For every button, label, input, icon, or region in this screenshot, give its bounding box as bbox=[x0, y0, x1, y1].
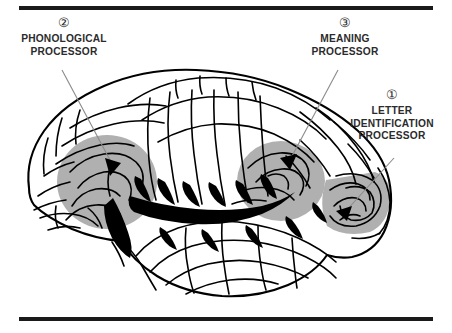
callout-meaning-processor: ③ MEANING PROCESSOR bbox=[288, 16, 402, 58]
callout-phonological-processor: ② PHONOLOGICAL PROCESSOR bbox=[4, 16, 124, 58]
callout-label-letter-line3: PROCESSOR bbox=[337, 130, 447, 142]
callout-label-meaning-line1: MEANING bbox=[288, 33, 402, 45]
leader-line-meaning bbox=[291, 70, 338, 158]
callout-number-3: ③ bbox=[288, 16, 402, 31]
callout-label-letter-line1: LETTER bbox=[337, 105, 447, 117]
callout-label-letter-line2: IDENTIFICATION bbox=[337, 118, 447, 130]
callout-label-meaning-line2: PROCESSOR bbox=[288, 46, 402, 58]
callout-number-1: ① bbox=[337, 88, 447, 103]
figure-container: ② PHONOLOGICAL PROCESSOR ③ MEANING PROCE… bbox=[0, 0, 452, 333]
callout-number-2: ② bbox=[4, 16, 124, 31]
callout-label-phonological-line1: PHONOLOGICAL bbox=[4, 33, 124, 45]
callout-letter-identification-processor: ① LETTER IDENTIFICATION PROCESSOR bbox=[337, 88, 447, 143]
callout-label-phonological-line2: PROCESSOR bbox=[4, 46, 124, 58]
